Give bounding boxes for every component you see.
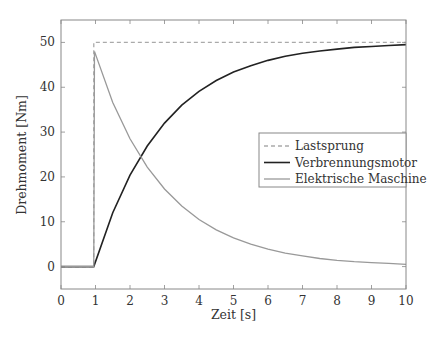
x-tick-label: 1 — [92, 294, 100, 308]
y-tick-label: 10 — [40, 215, 55, 229]
x-axis-label: Zeit [s] — [211, 307, 256, 322]
x-tick-label: 4 — [195, 294, 203, 308]
y-tick-label: 20 — [40, 170, 55, 184]
x-tick-label: 6 — [264, 294, 272, 308]
x-tick-label: 10 — [398, 294, 413, 308]
x-tick-label: 8 — [333, 294, 341, 308]
legend-label: Lastsprung — [295, 139, 364, 153]
legend: LastsprungVerbrennungsmotorElektrische M… — [259, 133, 427, 187]
chart: 01234567891001020304050 Zeit [s] Drehmom… — [0, 0, 433, 340]
legend-label: Elektrische Maschine — [295, 172, 427, 186]
x-tick-label: 2 — [126, 294, 134, 308]
y-tick-label: 50 — [40, 35, 55, 49]
x-tick-label: 9 — [368, 294, 376, 308]
y-tick-label: 40 — [40, 80, 55, 94]
y-tick-label: 30 — [40, 125, 55, 139]
x-tick-label: 0 — [57, 294, 65, 308]
legend-label: Verbrennungsmotor — [294, 156, 417, 170]
x-tick-label: 5 — [230, 294, 238, 308]
x-tick-label: 7 — [299, 294, 307, 308]
x-tick-label: 3 — [161, 294, 169, 308]
y-axis-label: Drehmoment [Nm] — [14, 95, 29, 215]
y-tick-label: 0 — [47, 260, 55, 274]
